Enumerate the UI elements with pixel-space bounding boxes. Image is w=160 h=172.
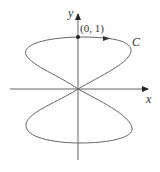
x-axis-label: x [145,92,152,106]
y-axis-label: y [67,6,74,20]
figure-canvas: y x (0, 1) C [0,0,160,172]
curve-lower-loop [26,89,132,143]
point-marker [76,35,80,39]
direction-arrow-icon [103,36,110,41]
point-label: (0, 1) [80,22,104,35]
curve-label: C [132,35,141,49]
